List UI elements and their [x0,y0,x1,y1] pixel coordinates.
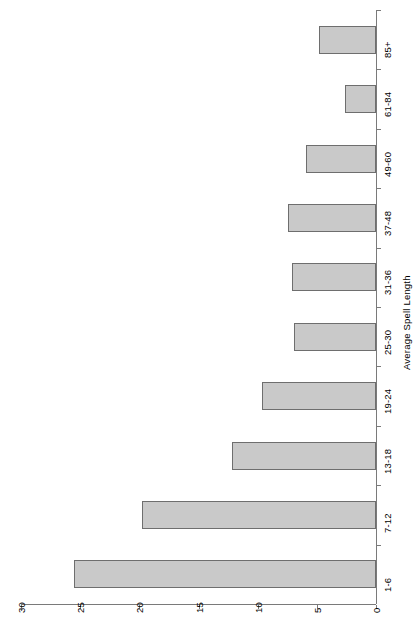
bar [345,85,376,113]
category-axis-label: 37-48 [383,211,393,236]
value-axis-tick-label: 0 [372,608,382,613]
value-axis-tick-label: 20 [135,602,145,613]
category-axis-label: 1-6 [383,578,393,592]
category-axis-label: 19-24 [383,389,393,414]
category-axis-label: 7-12 [383,513,393,533]
axis-title: Average Spell Length [402,275,412,370]
category-axis-tick [377,366,381,367]
value-axis-tick-label: 30 [17,602,27,613]
category-axis-tick [377,426,381,427]
bar [319,26,376,54]
value-axis-tick-label: 10 [254,602,264,613]
category-axis-tick [377,485,381,486]
category-axis-label: 61-84 [383,92,393,117]
bar [232,442,376,470]
bar-chart: 1-67-1213-1819-2425-3031-3637-4849-6061-… [0,0,420,644]
category-axis-label: 85+ [383,41,393,58]
category-axis-tick [377,69,381,70]
category-axis-tick [377,188,381,189]
bar [142,501,376,529]
bar [292,263,376,291]
value-axis-tick-label: 5 [313,608,323,613]
bar [294,323,376,351]
bar [288,204,376,232]
category-axis-label: 25-30 [383,329,393,354]
category-axis-tick [377,307,381,308]
category-axis-label: 31-36 [383,270,393,295]
bar [306,145,376,173]
bar [74,560,376,588]
category-axis-tick [377,10,381,11]
category-axis-label: 49-60 [383,151,393,176]
value-axis-tick-label: 15 [195,602,205,613]
category-axis-tick [377,129,381,130]
category-axis-tick [377,248,381,249]
bar [262,382,376,410]
category-axis-label: 13-18 [383,448,393,473]
plot-area: 1-67-1213-1819-2425-3031-3637-4849-6061-… [0,0,420,644]
category-axis-tick [377,545,381,546]
value-axis-tick-label: 25 [76,602,86,613]
